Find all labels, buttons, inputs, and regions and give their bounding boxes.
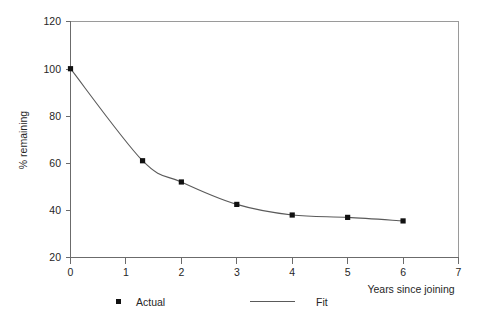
y-tick-label-4: 100: [43, 63, 61, 75]
chart-svg: 20 40 60 80 100 120 % remaining: [0, 0, 495, 319]
y-tick-label-5: 120: [43, 15, 61, 27]
x-tick-label-1: 1: [123, 266, 129, 278]
legend-label-actual: Actual: [136, 296, 165, 308]
data-point-marker: [140, 158, 145, 163]
x-tick-label-0: 0: [68, 266, 74, 278]
x-tick-label-6: 6: [400, 266, 406, 278]
x-tick-label-7: 7: [456, 266, 462, 278]
y-tick-label-0: 20: [49, 251, 61, 263]
y-tick-label-2: 60: [49, 157, 61, 169]
legend-marker-square-icon: [116, 299, 121, 304]
chart-background: [0, 0, 495, 319]
y-tick-label-1: 40: [49, 204, 61, 216]
data-point-marker: [400, 218, 405, 223]
x-tick-label-4: 4: [289, 266, 295, 278]
legend-label-fit: Fit: [316, 296, 328, 308]
x-tick-label-5: 5: [345, 266, 351, 278]
x-axis-title: Years since joining: [367, 283, 454, 295]
data-point-marker: [68, 66, 73, 71]
data-point-marker: [345, 215, 350, 220]
y-tick-label-3: 80: [49, 110, 61, 122]
data-point-marker: [179, 179, 184, 184]
data-point-marker: [234, 202, 239, 207]
y-axis-title: % remaining: [17, 111, 29, 170]
x-tick-label-3: 3: [234, 266, 240, 278]
chart-figure: 20 40 60 80 100 120 % remaining: [0, 0, 495, 319]
x-tick-label-2: 2: [178, 266, 184, 278]
data-point-marker: [290, 212, 295, 217]
